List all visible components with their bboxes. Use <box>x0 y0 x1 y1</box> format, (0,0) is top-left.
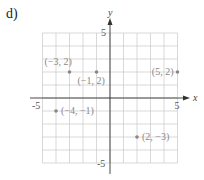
point-label: (−1, 2) <box>78 75 105 87</box>
data-point <box>135 135 139 139</box>
x-tick-label: 5 <box>175 100 180 111</box>
x-tick-label: -5 <box>32 100 40 111</box>
data-point <box>95 70 99 74</box>
data-point <box>54 109 58 113</box>
data-point <box>68 70 72 74</box>
point-label: (5, 2) <box>152 66 174 78</box>
y-axis-label: y <box>107 7 113 18</box>
x-axis-label: x <box>192 92 198 103</box>
coordinate-plane: xy-555-5(−3, 2)(−1, 2)(5, 2)(−4, −1)(2, … <box>0 0 204 180</box>
point-label: (2, −3) <box>142 131 169 143</box>
y-axis-arrow-icon <box>108 18 113 25</box>
y-tick-label: 5 <box>101 27 106 38</box>
point-label: (−4, −1) <box>61 105 94 117</box>
x-axis-arrow-icon <box>183 96 190 101</box>
y-tick-label: -5 <box>97 158 105 169</box>
data-point <box>176 70 180 74</box>
point-label: (−3, 2) <box>45 56 72 68</box>
